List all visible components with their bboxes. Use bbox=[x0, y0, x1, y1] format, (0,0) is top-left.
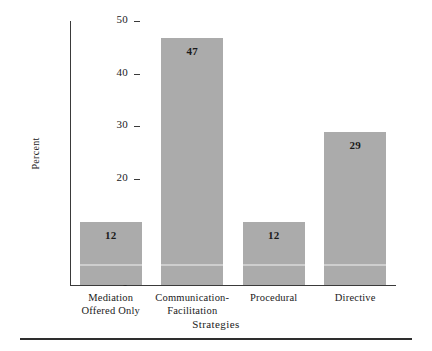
bottom-rule bbox=[20, 338, 412, 340]
x-axis-title: Strategies bbox=[0, 318, 432, 330]
bar-group: 12 bbox=[80, 22, 142, 285]
bar-value-label: 29 bbox=[324, 139, 386, 151]
bar-chart-figure: Percent 01020304050 12471229 MediationOf… bbox=[0, 0, 432, 351]
plot-area: 01020304050 12471229 bbox=[70, 22, 396, 285]
bar-value-label: 12 bbox=[80, 229, 142, 241]
bar-value-label: 47 bbox=[161, 45, 223, 57]
scan-line-artifact bbox=[324, 264, 386, 266]
bar[interactable] bbox=[161, 38, 223, 285]
bar-group: 47 bbox=[161, 22, 223, 285]
x-category-label: Directive bbox=[300, 292, 410, 305]
bar-value-label: 12 bbox=[243, 229, 305, 241]
bar[interactable] bbox=[324, 132, 386, 285]
scan-line-artifact bbox=[243, 264, 305, 266]
scan-line-artifact bbox=[161, 264, 223, 266]
x-category-label-line: Facilitation bbox=[137, 305, 247, 318]
y-axis-title: Percent bbox=[30, 114, 41, 194]
x-category-label-line: Directive bbox=[300, 292, 410, 305]
bar-group: 29 bbox=[324, 22, 386, 285]
bar-group: 12 bbox=[243, 22, 305, 285]
scan-line-artifact bbox=[80, 264, 142, 266]
